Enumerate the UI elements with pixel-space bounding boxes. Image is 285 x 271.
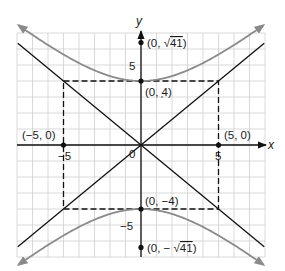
point-marker (61, 142, 66, 147)
origin-label: 0 (129, 148, 135, 160)
tick-y-neg5: −5 (120, 220, 133, 232)
hyperbola-figure: x y 0 −5 5 5 −5 (0, √41) (0, 4) (−5, 0) … (0, 0, 285, 271)
point-marker (138, 245, 143, 250)
radicand: 41 (180, 242, 193, 254)
lower-branch (19, 209, 141, 265)
vertex-top-label: (0, 4) (145, 86, 172, 98)
point-marker (138, 206, 143, 211)
speck (161, 96, 163, 98)
tick-y-5: 5 (129, 60, 135, 72)
x-axis-label: x (267, 138, 275, 152)
point-marker (216, 142, 221, 147)
point-marker (138, 40, 143, 45)
focus-bottom-label: (0, − √41) (147, 242, 197, 254)
radicand: 41 (170, 37, 183, 49)
vertex-bottom-label: (0, −4) (145, 195, 179, 207)
focus-top-label: (0, √41) (147, 37, 187, 49)
upper-branch (141, 25, 263, 81)
y-axis-label: y (135, 14, 143, 28)
tick-x-neg5: −5 (58, 150, 71, 162)
point-left-label: (−5, 0) (22, 129, 56, 141)
upper-branch (19, 25, 141, 81)
point-marker (138, 78, 143, 83)
lower-branch (141, 209, 263, 265)
point-right-label: (5, 0) (224, 129, 251, 141)
tick-x-5: 5 (215, 150, 221, 162)
